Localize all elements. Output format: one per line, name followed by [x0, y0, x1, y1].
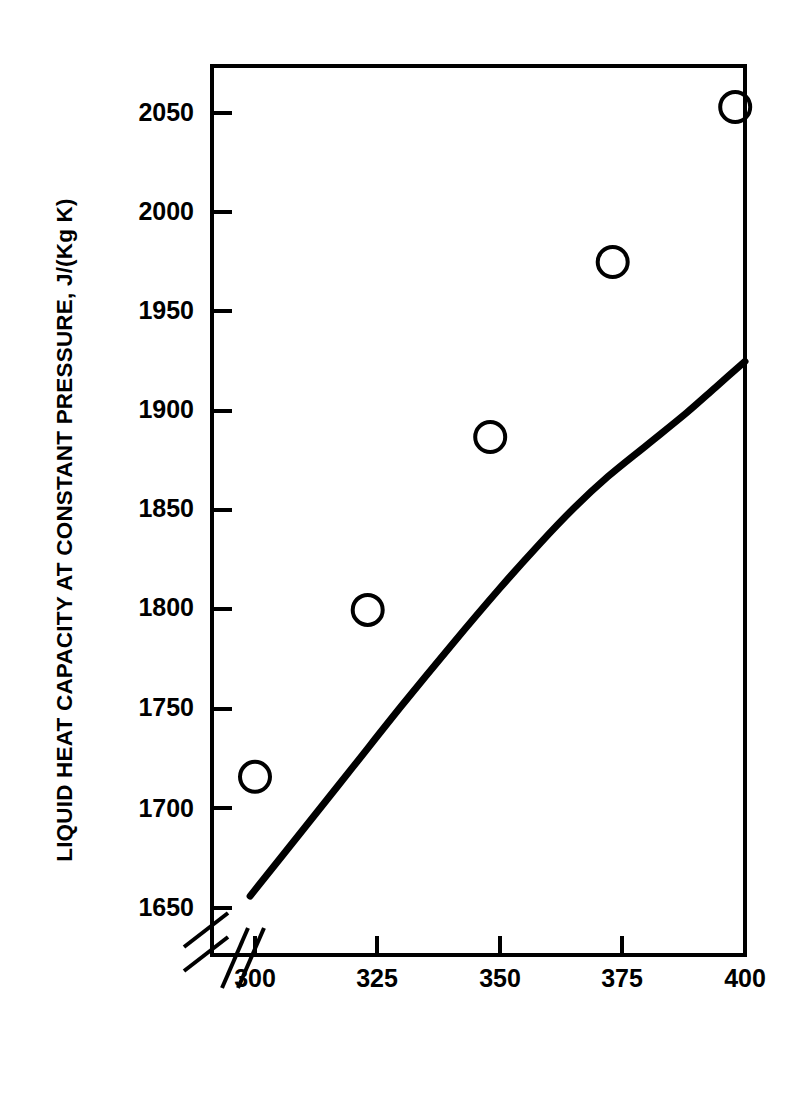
chart-figure: LIQUID HEAT CAPACITY AT CONSTANT PRESSUR…	[0, 0, 803, 1110]
plot-area	[0, 0, 803, 1110]
data-point-marker	[598, 247, 628, 277]
data-point-marker	[475, 422, 505, 452]
series-experimental-data	[240, 92, 750, 792]
x-tick-marks	[255, 936, 745, 955]
plot-border	[212, 66, 745, 955]
data-point-marker	[240, 762, 270, 792]
axes-frame	[212, 66, 745, 955]
data-point-marker	[353, 595, 383, 625]
y-tick-marks	[212, 113, 232, 908]
axis-break-marks	[184, 913, 264, 988]
series-correlation-curve	[250, 361, 745, 896]
